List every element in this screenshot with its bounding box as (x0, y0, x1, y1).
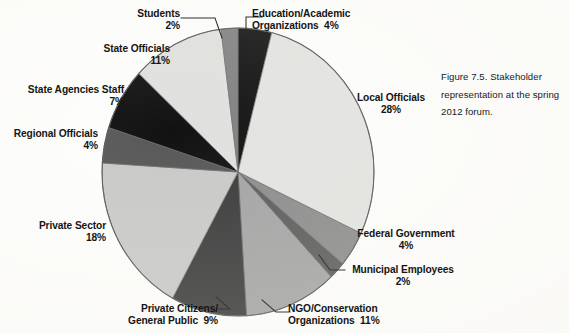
figure-container: Students 2% Education/Academic Organizat… (0, 0, 569, 333)
label-state-agencies-staff-name: State Agencies Staff (2, 84, 124, 96)
label-education-name-line1: Education/Academic (252, 8, 422, 20)
label-students-pct: 2% (98, 20, 180, 32)
label-students-name: Students (98, 8, 180, 20)
label-regional-officials-pct: 4% (0, 140, 98, 152)
label-local-officials: Local Officials 28% (344, 92, 438, 117)
label-ngo-name-line2: Organizations 11% (288, 315, 458, 327)
label-state-officials-name: State Officials (46, 43, 170, 55)
label-private-sector: Private Sector 18% (12, 220, 106, 245)
label-state-agencies-staff-pct: 7% (2, 96, 124, 108)
label-private-citizens-name-line2-text: General Public (128, 315, 198, 326)
label-private-sector-name: Private Sector (12, 220, 106, 232)
label-ngo: NGO/Conservation Organizations 11% (288, 303, 458, 328)
label-private-citizens-name-line2: General Public 9% (96, 315, 218, 327)
label-municipal-employees: Municipal Employees 2% (342, 264, 464, 289)
label-private-sector-pct: 18% (12, 232, 106, 244)
label-ngo-name-line2-text: Organizations (288, 315, 355, 326)
label-federal-government: Federal Government 4% (348, 228, 464, 253)
label-private-citizens-name-line1: Private Citizens/ (96, 303, 218, 315)
label-ngo-pct: 11% (360, 315, 380, 326)
label-local-officials-pct: 28% (344, 104, 438, 116)
label-state-officials: State Officials 11% (46, 43, 170, 68)
label-private-citizens: Private Citizens/ General Public 9% (96, 303, 218, 328)
label-private-citizens-pct: 9% (203, 315, 218, 326)
label-education: Education/Academic Organizations 4% (252, 8, 422, 33)
label-education-name-line2-text: Organizations (252, 20, 319, 31)
label-education-pct: 4% (324, 20, 339, 31)
label-regional-officials: Regional Officials 4% (0, 128, 98, 153)
label-students: Students 2% (98, 8, 180, 33)
label-municipal-employees-name: Municipal Employees (342, 264, 464, 276)
label-federal-government-name: Federal Government (348, 228, 464, 240)
label-state-officials-pct: 11% (46, 55, 170, 67)
label-regional-officials-name: Regional Officials (0, 128, 98, 140)
label-federal-government-pct: 4% (348, 240, 464, 252)
label-municipal-employees-pct: 2% (342, 276, 464, 288)
pie-slice-group (102, 28, 374, 316)
label-ngo-name-line1: NGO/Conservation (288, 303, 458, 315)
label-state-agencies-staff: State Agencies Staff 7% (2, 84, 124, 109)
label-local-officials-name: Local Officials (344, 92, 438, 104)
figure-caption: Figure 7.5. Stakeholder representation a… (441, 68, 565, 121)
label-education-name-line2: Organizations 4% (252, 20, 422, 32)
